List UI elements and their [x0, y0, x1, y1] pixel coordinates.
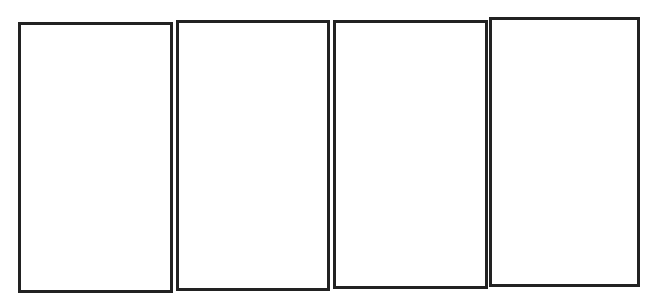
- panel-4: [489, 17, 640, 287]
- panel-2: [176, 20, 330, 291]
- panel-1: [18, 22, 173, 293]
- panel-3: [333, 20, 488, 289]
